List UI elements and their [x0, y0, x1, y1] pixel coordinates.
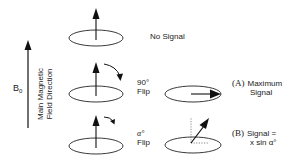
- result-a-label: (A)Maximum Signal: [232, 79, 282, 97]
- flip-90-label: 90° Flip: [137, 78, 150, 96]
- result-a-transverse-icon: [165, 86, 221, 102]
- no-signal-label: No Signal: [150, 32, 185, 41]
- main-field-direction-label: Main Magnetic Field Direction: [36, 68, 54, 120]
- flip-alpha-state-icon: [69, 115, 123, 154]
- result-b-label: (B)Signal = x sin α°: [232, 129, 277, 147]
- flip-alpha-label: α° Flip: [137, 129, 150, 147]
- flip-90-state-icon: [69, 62, 123, 102]
- main-field-arrow-icon: [25, 40, 32, 128]
- b0-label: B0: [13, 84, 22, 96]
- rest-state-icon: [69, 8, 123, 46]
- result-b-tilted-icon: [165, 118, 221, 153]
